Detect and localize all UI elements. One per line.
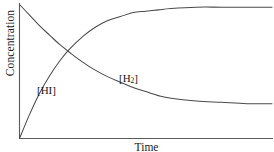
concentration-vs-time-chart: Concentration Time [HI] [H2] — [0, 0, 274, 152]
curve-h2-rise — [20, 7, 273, 138]
curve-label-h2-suffix: ] — [134, 72, 138, 84]
x-axis-title: Time — [19, 141, 274, 152]
data-curves — [20, 5, 273, 139]
curve-label-hi: [HI] — [37, 84, 56, 96]
curve-label-h2-prefix: [H — [119, 72, 131, 84]
curve-label-h2: [H2] — [119, 72, 138, 85]
y-axis-title: Concentration — [4, 0, 16, 91]
curve-hi-decay — [20, 5, 273, 104]
axes — [19, 3, 273, 139]
